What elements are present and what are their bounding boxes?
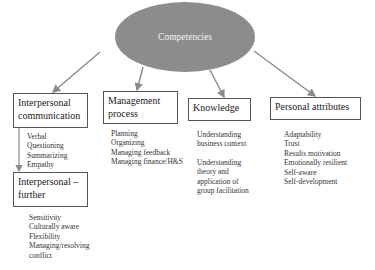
management-list: Planning Organizing Managing feedback Ma…: [111, 129, 183, 167]
box-title-line2: process: [108, 107, 173, 120]
list-item: Summarizing: [27, 151, 67, 160]
box-title: Knowledge: [193, 101, 246, 114]
list-item: business context: [197, 139, 249, 148]
knowledge-box: Knowledge: [188, 98, 251, 121]
list-item: Culturally aware: [29, 222, 89, 231]
further-list: Sensitivity Culturally aware Flexibility…: [29, 213, 89, 260]
knowledge-list: Understanding business context Understan…: [197, 130, 249, 195]
list-item: Organizing: [111, 138, 183, 147]
list-spacer: [197, 149, 249, 158]
management-process-box: Management process: [103, 91, 178, 124]
arrow-to-personal: [254, 51, 315, 96]
list-item: Verbal: [27, 132, 67, 141]
list-item: Self-aware: [284, 168, 347, 177]
box-title: Personal attributes: [275, 100, 356, 113]
box-title-line2: communication: [18, 109, 83, 122]
list-item: Planning: [111, 129, 183, 138]
list-item: Managing finance/H&S: [111, 157, 183, 166]
personal-attributes-box: Personal attributes: [270, 97, 361, 120]
list-item: Adaptability: [284, 130, 347, 139]
box-title-line1: Interpersonal –: [18, 175, 83, 188]
list-item: Managing feedback: [111, 148, 183, 157]
interpersonal-further-box: Interpersonal – further: [13, 172, 88, 207]
list-item: Sensitivity: [29, 213, 89, 222]
list-item: application of: [197, 177, 249, 186]
box-title-line2: further: [18, 188, 83, 201]
interpersonal-list: Verbal Questioning Summarizing Empathy: [27, 132, 67, 170]
interpersonal-communication-box: Interpersonal communication: [13, 93, 88, 128]
list-item: Results motivation: [284, 149, 347, 158]
list-item: theory and: [197, 167, 249, 176]
list-item: Emotionally resilient: [284, 158, 347, 167]
list-item: Understanding: [197, 158, 249, 167]
box-title-line1: Management: [108, 94, 173, 107]
arrow-to-knowledge: [210, 70, 224, 97]
list-item: Empathy: [27, 160, 67, 169]
competencies-label: Competencies: [125, 32, 245, 42]
list-item: Managing/resolving: [29, 241, 89, 250]
box-title-line1: Interpersonal: [18, 96, 83, 109]
list-item: Questioning: [27, 141, 67, 150]
list-item: Flexibility: [29, 232, 89, 241]
list-item: Self-development: [284, 177, 347, 186]
list-item: conflict: [29, 251, 89, 260]
arrow-to-interpersonal: [53, 52, 100, 92]
list-item: Trust: [284, 139, 347, 148]
arrow-to-management: [137, 67, 143, 90]
list-item: group facilitation: [197, 186, 249, 195]
personal-list: Adaptability Trust Results motivation Em…: [284, 130, 347, 186]
list-item: Understanding: [197, 130, 249, 139]
